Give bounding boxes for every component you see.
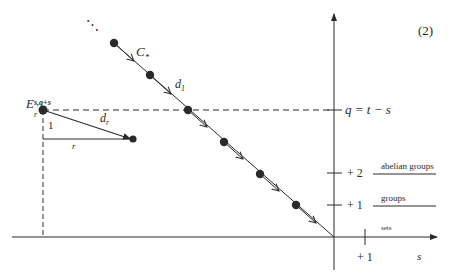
sets-label: sets [381, 225, 392, 232]
groups-label: groups [381, 194, 406, 203]
s-axis-label: s [417, 251, 421, 262]
abelian-groups-label: abelian groups [381, 162, 434, 171]
chain-node [256, 170, 264, 178]
chain-label: C* [136, 45, 149, 62]
step-horizontal-label: r [72, 142, 76, 151]
dr-label: dr [100, 112, 109, 127]
chain-node [220, 138, 228, 146]
ellipsis-dots: ⋱ [86, 18, 99, 31]
spectral-sequence-diagram: ⋱ C* d1 dr Es,q+sr 1 r q = t − s (2) + 2… [0, 0, 450, 280]
chain-node [110, 39, 118, 47]
chain-node [292, 201, 300, 209]
step-vertical-label: 1 [48, 120, 54, 131]
E-term-label: Es,q+sr [26, 97, 64, 110]
q-axis-label: q = t − s [345, 103, 391, 116]
dr-arrow [43, 110, 131, 139]
d1-label: d1 [175, 78, 185, 93]
y-tick-label-plus1: + 1 [347, 199, 363, 211]
x-tick-label-plus1: + 1 [357, 251, 373, 263]
chain-node [184, 106, 192, 114]
diagram-canvas [0, 0, 450, 280]
chain-node [146, 71, 154, 79]
chain-complex [110, 39, 334, 237]
equation-number: (2) [418, 24, 433, 37]
dr-target-node [129, 135, 136, 142]
y-tick-label-plus2: + 2 [347, 167, 363, 179]
